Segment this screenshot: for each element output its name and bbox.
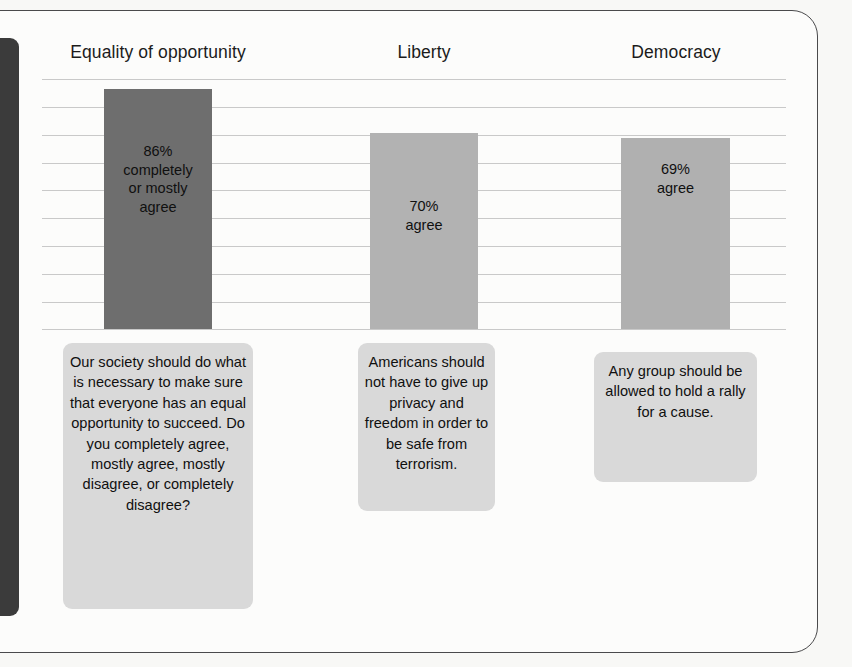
bar-label-line: or mostly bbox=[104, 179, 212, 198]
caption-liberty: Americans should not have to give up pri… bbox=[358, 343, 495, 511]
bar-label-line: agree bbox=[621, 179, 730, 198]
column-header-democracy: Democracy bbox=[631, 42, 720, 63]
figure-canvas: Equality of opportunity Liberty Democrac… bbox=[0, 0, 852, 667]
column-header-liberty: Liberty bbox=[397, 42, 450, 63]
column-header-equality-of-opportunity: Equality of opportunity bbox=[70, 42, 245, 63]
bar-label-line: completely bbox=[104, 161, 212, 180]
bar-label-line: agree bbox=[104, 198, 212, 217]
caption-equality-of-opportunity: Our society should do what is necessary … bbox=[63, 343, 253, 609]
bar-value-label-democracy: 69% agree bbox=[621, 160, 730, 197]
bar-label-line: agree bbox=[370, 216, 478, 235]
bar-value-label-equality-of-opportunity: 86% completely or mostly agree bbox=[104, 142, 212, 216]
caption-democracy: Any group should be allowed to hold a ra… bbox=[594, 352, 757, 482]
bar-chart: Equality of opportunity Liberty Democrac… bbox=[0, 0, 852, 667]
bar-label-line: 86% bbox=[104, 142, 212, 161]
bar-equality-of-opportunity: 86% completely or mostly agree bbox=[104, 89, 212, 329]
bar-label-line: 70% bbox=[370, 197, 478, 216]
bar-label-line: 69% bbox=[621, 160, 730, 179]
gridline bbox=[42, 329, 786, 330]
bar-liberty: 70% agree bbox=[370, 133, 478, 329]
bar-value-label-liberty: 70% agree bbox=[370, 197, 478, 234]
gridline bbox=[42, 79, 786, 80]
bar-democracy: 69% agree bbox=[621, 138, 730, 329]
